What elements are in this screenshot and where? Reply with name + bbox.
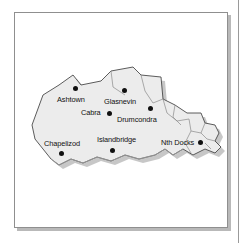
map-marker-ashtown[interactable] — [73, 86, 78, 91]
map-marker-nth-docks[interactable] — [198, 140, 203, 145]
map-marker-cabra[interactable] — [107, 111, 112, 116]
map-label-chapelizod: Chapelizod — [44, 140, 80, 148]
map-marker-islandbridge[interactable] — [110, 148, 115, 153]
map-screenshot: Ashtown Cabra Glasnevin Drumcondra Chape… — [0, 0, 245, 243]
map-label-ashtown: Ashtown — [57, 96, 85, 104]
map-label-glasnevin: Glasnevin — [104, 98, 136, 106]
map-panel-frame: Ashtown Cabra Glasnevin Drumcondra Chape… — [14, 12, 228, 228]
map-label-nth-docks: Nth Docks — [161, 139, 194, 147]
map-label-islandbridge: Islandbridge — [97, 136, 136, 144]
map-label-cabra: Cabra — [81, 109, 101, 117]
map-label-drumcondra: Drumcondra — [117, 116, 157, 124]
map-canvas: Ashtown Cabra Glasnevin Drumcondra Chape… — [15, 13, 229, 229]
page-edge-rule — [238, 0, 239, 243]
map-marker-drumcondra[interactable] — [148, 106, 153, 111]
map-marker-glasnevin[interactable] — [122, 88, 127, 93]
map-marker-chapelizod[interactable] — [59, 151, 64, 156]
